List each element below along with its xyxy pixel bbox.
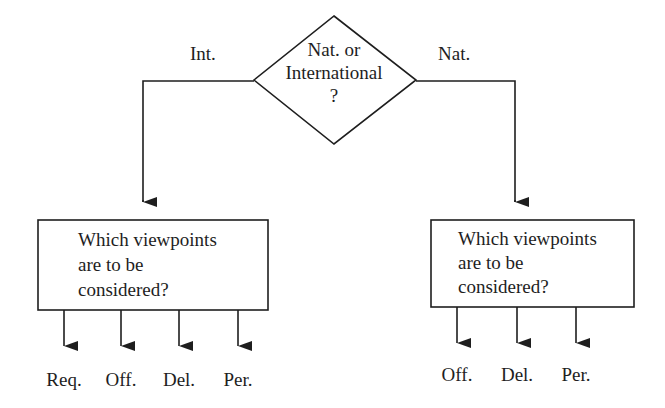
int-connector bbox=[143, 81, 254, 202]
right-box-line3: considered? bbox=[458, 276, 549, 298]
nat-branch-label: Nat. bbox=[438, 43, 470, 65]
right-output-per: Per. bbox=[551, 364, 601, 386]
left-box-line2: are to be bbox=[78, 254, 143, 276]
right-box-line2: are to be bbox=[458, 252, 523, 274]
right-output-off: Off. bbox=[432, 364, 482, 386]
left-output-req: Req. bbox=[39, 369, 89, 391]
int-branch-label: Int. bbox=[190, 43, 216, 65]
left-box-line1: Which viewpoints bbox=[78, 229, 217, 251]
decision-line2: International bbox=[264, 62, 404, 84]
left-output-del: Del. bbox=[154, 369, 204, 391]
right-box-line1: Which viewpoints bbox=[458, 228, 597, 250]
right-output-del: Del. bbox=[492, 364, 542, 386]
decision-line1: Nat. or bbox=[274, 39, 394, 61]
left-output-off: Off. bbox=[96, 369, 146, 391]
left-box-line3: considered? bbox=[78, 279, 169, 301]
nat-connector bbox=[416, 81, 515, 202]
decision-line3: ? bbox=[314, 85, 354, 107]
left-output-per: Per. bbox=[213, 369, 263, 391]
